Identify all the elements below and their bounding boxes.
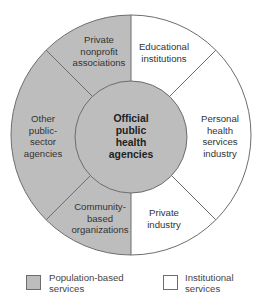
label-personal-health: Personal health services industry: [201, 113, 239, 159]
label-other-public: Other public- sector agencies: [24, 113, 62, 159]
legend-swatch-institutional: [163, 275, 178, 290]
label-private-nonprofit: Private nonprofit associations: [73, 34, 126, 69]
label-educational: Educational institutions: [139, 41, 189, 64]
center-label: Official public health agencies: [109, 113, 153, 161]
legend-label-institutional: Institutional services: [185, 273, 234, 294]
legend-swatch-population: [26, 275, 41, 290]
label-private-industry: Private industry: [147, 207, 181, 230]
label-community-based: Community- based organizations: [71, 201, 128, 236]
legend-label-population: Population-based services: [49, 273, 124, 294]
